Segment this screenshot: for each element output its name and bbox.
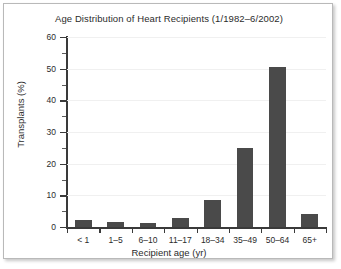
x-tick-label: 35–49 — [229, 235, 261, 245]
y-tick-label: 50 — [26, 64, 56, 74]
y-tick-mark — [60, 69, 66, 70]
y-tick-mark — [60, 37, 66, 38]
bar — [75, 220, 92, 227]
x-tick-mark — [197, 228, 198, 233]
x-tick-label: 1–5 — [99, 235, 131, 245]
plot-area — [67, 37, 326, 227]
x-tick-label: 6–10 — [132, 235, 164, 245]
chart-title: Age Distribution of Heart Recipients (1/… — [4, 13, 334, 24]
gridline — [67, 37, 326, 38]
y-tick-mark — [60, 132, 66, 133]
y-tick-mark — [60, 227, 66, 228]
x-tick-mark — [326, 228, 327, 233]
x-tick-mark — [99, 228, 100, 233]
y-tick-mark-minor — [62, 53, 66, 54]
bar — [204, 200, 221, 227]
x-tick-label: 18–34 — [197, 235, 229, 245]
y-tick-label: 20 — [26, 159, 56, 169]
bar — [140, 223, 157, 227]
y-tick-mark-minor — [62, 180, 66, 181]
y-tick-mark — [60, 164, 66, 165]
x-tick-label: < 1 — [67, 235, 99, 245]
y-tick-mark-minor — [62, 116, 66, 117]
y-tick-mark-minor — [62, 85, 66, 86]
x-tick-mark — [132, 228, 133, 233]
y-tick-label: 40 — [26, 95, 56, 105]
x-tick-mark — [261, 228, 262, 233]
y-tick-label: 30 — [26, 127, 56, 137]
gridline — [67, 164, 326, 165]
x-tick-mark — [294, 228, 295, 233]
x-tick-mark — [164, 228, 165, 233]
y-tick-label: 10 — [26, 190, 56, 200]
gridline — [67, 132, 326, 133]
gridline — [67, 69, 326, 70]
x-tick-mark — [67, 228, 68, 233]
bar — [107, 222, 124, 227]
x-tick-label: 50–64 — [261, 235, 293, 245]
bar — [269, 67, 286, 227]
gridline — [67, 100, 326, 101]
chart-figure: Age Distribution of Heart Recipients (1/… — [3, 3, 333, 259]
x-tick-label: 65+ — [294, 235, 326, 245]
y-tick-label: 0 — [26, 222, 56, 232]
y-tick-mark — [60, 100, 66, 101]
y-tick-label: 60 — [26, 32, 56, 42]
x-tick-mark — [229, 228, 230, 233]
y-tick-mark — [60, 195, 66, 196]
x-tick-label: 11–17 — [164, 235, 196, 245]
bar — [172, 218, 189, 228]
x-axis-label: Recipient age (yr) — [4, 247, 334, 258]
y-tick-mark-minor — [62, 211, 66, 212]
y-tick-mark-minor — [62, 148, 66, 149]
gridline — [67, 195, 326, 196]
bar — [237, 148, 254, 227]
bar — [301, 214, 318, 227]
y-axis-label: Transplants (%) — [15, 55, 26, 175]
